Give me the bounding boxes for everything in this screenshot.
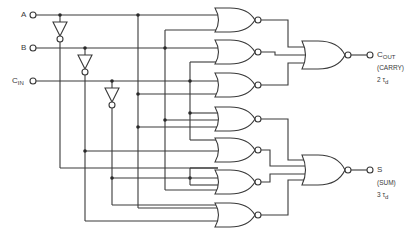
- cout-label: COUT: [377, 51, 395, 60]
- sum-terminal[interactable]: [367, 167, 373, 173]
- sum-delay: 3 τd: [377, 192, 388, 200]
- input-cin-label: CIN: [12, 77, 24, 86]
- cout-delay: 2 τd: [377, 77, 388, 85]
- input-b-terminal[interactable]: [30, 45, 36, 51]
- nor-gate-1: [215, 8, 261, 32]
- sum-nor-gate: [302, 155, 373, 185]
- cout-desc: (CARRY): [377, 65, 404, 72]
- inverter-cin: [105, 79, 119, 205]
- sum-label: S: [377, 166, 382, 174]
- input-a-label: A: [21, 11, 26, 19]
- nor-gate-4: [215, 107, 261, 131]
- nor-gate-2: [215, 40, 261, 64]
- circuit-diagram: [0, 0, 418, 240]
- inverter-b: [78, 46, 92, 221]
- carry-wires: [261, 20, 305, 85]
- nor-gates-level1: [215, 8, 261, 227]
- inverter-a: [53, 13, 67, 168]
- cout-terminal[interactable]: [367, 52, 373, 58]
- input-cin-terminal[interactable]: [30, 78, 36, 84]
- input-terminals: [30, 12, 36, 84]
- nor-gate-5: [215, 138, 261, 162]
- input-b-label: B: [21, 44, 26, 52]
- nor-gate-3: [215, 73, 261, 97]
- nor-gate-7: [215, 203, 261, 227]
- input-a-terminal[interactable]: [30, 12, 36, 18]
- bus-wires: [0, 13, 218, 221]
- sum-wires: [261, 119, 305, 215]
- cout-nor-gate: [302, 41, 373, 69]
- nor-gate-6: [215, 170, 261, 194]
- sum-desc: (SUM): [377, 180, 396, 187]
